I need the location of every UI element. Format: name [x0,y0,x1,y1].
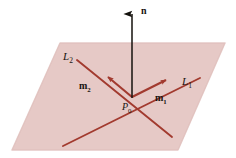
plane-shape [12,43,225,150]
label-m2: m2 [79,81,91,94]
label-L1: L1 [182,76,192,90]
diagram-canvas [0,0,236,158]
label-P0: P0 [122,102,132,115]
label-m1: m1 [155,93,167,106]
label-L2: L2 [63,51,73,65]
label-n: n [141,6,147,16]
vector-plane-diagram: L2 L1 m2 m1 P0 n [0,0,236,158]
